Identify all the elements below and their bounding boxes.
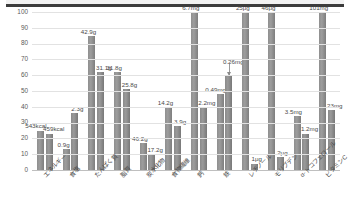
annotation-leader-line bbox=[229, 64, 230, 75]
gridline-50 bbox=[32, 91, 340, 92]
y-tick-label: 70 bbox=[0, 56, 28, 62]
y-axis: 0102030405060708090100 bbox=[0, 12, 30, 170]
gridline-70 bbox=[32, 59, 340, 60]
bar: 46.2g bbox=[140, 143, 147, 170]
bar: 31.1g bbox=[97, 72, 104, 170]
bar: 3.5mg bbox=[294, 116, 301, 170]
bar: 0.49mg bbox=[217, 94, 224, 170]
bar-value-label: 42.9g bbox=[81, 29, 96, 35]
gridline-20 bbox=[32, 138, 340, 139]
bar: 25.8g bbox=[123, 89, 130, 170]
y-tick-label: 30 bbox=[0, 119, 28, 125]
header-rule bbox=[6, 4, 344, 7]
x-tick-label: 鈣 bbox=[196, 170, 205, 179]
gridline-60 bbox=[32, 75, 340, 76]
bar-value-label: 25μg bbox=[236, 5, 250, 11]
bar-value-label: 14.2g bbox=[158, 100, 173, 106]
bar: 42.9g bbox=[88, 36, 95, 170]
x-tick-label: 鉄 bbox=[222, 170, 231, 179]
nutrition-bar-chart: 0102030405060708090100 543kcal459kcal0.9… bbox=[0, 0, 350, 223]
y-tick-label: 40 bbox=[0, 104, 28, 110]
x-axis: エネルギー食塩たんぱく質脂質炭水化物食物繊維鈣鉄レチノールモリブデンα-トコフェ… bbox=[32, 172, 340, 222]
y-tick-label: 20 bbox=[0, 135, 28, 141]
gridline-30 bbox=[32, 123, 340, 124]
y-tick-label: 80 bbox=[0, 40, 28, 46]
bar-value-label: 46μg bbox=[262, 5, 276, 11]
y-tick-label: 90 bbox=[0, 25, 28, 31]
bar-value-label: 31.8g bbox=[106, 65, 121, 71]
gridline-80 bbox=[32, 44, 340, 45]
y-tick-label: 60 bbox=[0, 72, 28, 78]
gridline-40 bbox=[32, 107, 340, 108]
bar-value-label: 101mg bbox=[309, 5, 328, 11]
bar: 543kcal bbox=[37, 131, 44, 171]
plot-area: 543kcal459kcal0.9g2.3g42.9g31.1g31.8g25.… bbox=[32, 12, 340, 170]
bar-value-label: 3.5mg bbox=[285, 109, 302, 115]
y-tick-label: 100 bbox=[0, 9, 28, 15]
gridline-90 bbox=[32, 28, 340, 29]
gridline-100 bbox=[32, 12, 340, 13]
y-tick-label: 10 bbox=[0, 151, 28, 157]
bar-value-label: 0.9g bbox=[58, 142, 70, 148]
y-tick-label: 0 bbox=[0, 167, 28, 173]
bar-value-label: 6.7mg bbox=[182, 5, 199, 11]
y-tick-label: 50 bbox=[0, 88, 28, 94]
